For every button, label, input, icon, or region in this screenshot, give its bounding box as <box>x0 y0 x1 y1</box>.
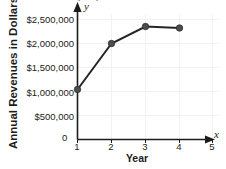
data-point-year-2 <box>108 40 114 46</box>
data-point-year-4 <box>176 25 182 31</box>
chart-plot-svg <box>0 0 226 169</box>
grid-lines <box>77 14 220 139</box>
data-line-series-1 <box>78 27 180 90</box>
y-axis-line <box>73 2 81 140</box>
chart-figure: Company ABC Annual Revenue Annual Revenu… <box>0 0 226 169</box>
data-point-year-1 <box>74 86 80 92</box>
data-point-year-3 <box>142 23 148 29</box>
x-axis-line <box>78 135 216 143</box>
data-point-markers <box>74 23 182 92</box>
